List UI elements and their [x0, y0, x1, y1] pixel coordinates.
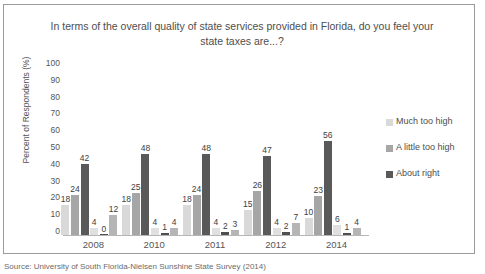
legend-label: Much too high	[396, 116, 453, 126]
legend-swatch-icon	[386, 145, 393, 152]
y-axis-title: Percent of Respondents (%)	[21, 35, 31, 185]
x-axis-tick-label: 2011	[185, 239, 245, 250]
bar	[253, 191, 261, 235]
x-axis-tick-label: 2010	[124, 239, 184, 250]
bar-value-label: 47	[257, 146, 277, 155]
x-axis-tick-label: 2014	[307, 239, 367, 250]
legend-label: About right	[396, 168, 440, 178]
source-caption: Source: University of South Florida-Niel…	[4, 262, 474, 271]
bar-group: 1824424012	[63, 67, 124, 235]
legend-item[interactable]: A little too high	[386, 143, 485, 169]
bar	[353, 228, 361, 235]
bar	[122, 205, 130, 235]
bar	[132, 193, 140, 235]
bar	[109, 215, 117, 235]
y-axis-tick-label: 60	[36, 126, 60, 134]
y-axis-tick-label: 70	[36, 109, 60, 117]
bar-group: 102356614	[306, 67, 367, 235]
bar-value-label: 48	[196, 144, 216, 153]
bar-group: 152647427	[245, 67, 306, 235]
bar-value-label: 4	[164, 218, 184, 227]
bar-value-label: 42	[75, 154, 95, 163]
bar-group: 182548414	[124, 67, 185, 235]
bar-value-label: 12	[103, 205, 123, 214]
y-axis-tick-label: 10	[36, 210, 60, 218]
bar	[292, 223, 300, 235]
y-axis-tick-label: 40	[36, 160, 60, 168]
legend-item[interactable]: About right	[386, 169, 485, 195]
x-axis-tick-label: 2008	[63, 239, 123, 250]
plot-area: 1824424012182548414182448423152647427102…	[63, 67, 367, 235]
bar	[314, 196, 322, 235]
legend-swatch-icon	[386, 171, 393, 178]
y-axis-tick-label: 50	[36, 143, 60, 151]
bar-value-label: 3	[225, 220, 245, 229]
y-axis-ticks: 1009080706050403020100	[36, 63, 60, 235]
legend-item[interactable]: Much too high	[386, 117, 485, 143]
bar-group: 182448423	[185, 67, 246, 235]
bar	[61, 205, 69, 235]
bar-value-label: 56	[318, 131, 338, 140]
bar	[244, 210, 252, 235]
x-axis-tick-label: 2012	[246, 239, 306, 250]
bar	[193, 195, 201, 235]
bar	[305, 218, 313, 235]
bar-value-label: 4	[347, 218, 367, 227]
x-axis-line	[63, 235, 369, 236]
y-axis-tick-label: 0	[36, 227, 60, 235]
bar-value-label: 48	[135, 144, 155, 153]
y-axis-tick-label: 30	[36, 177, 60, 185]
chart-legend: Much too highA little too highAbout righ…	[386, 117, 485, 195]
y-axis-tick-label: 90	[36, 76, 60, 84]
y-axis-tick-label: 100	[36, 59, 60, 67]
legend-label: A little too high	[396, 142, 455, 152]
chart-container: In terms of the overall quality of state…	[3, 4, 475, 254]
chart-title: In terms of the overall quality of state…	[40, 19, 444, 49]
bar	[71, 195, 79, 235]
bar	[170, 228, 178, 235]
y-axis-tick-label: 80	[36, 93, 60, 101]
bar	[183, 205, 191, 235]
legend-swatch-icon	[386, 119, 393, 126]
